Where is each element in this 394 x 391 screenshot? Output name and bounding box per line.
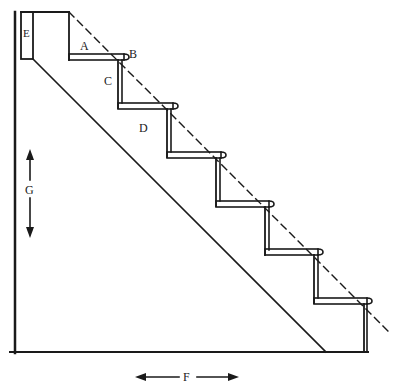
step-5 [265, 249, 323, 303]
label-d-stringer: D [139, 121, 148, 135]
staircase-diagram: A B C D E F G [0, 0, 394, 391]
step-4 [216, 201, 274, 255]
stringer-underside [33, 59, 326, 352]
label-b-nosing: B [129, 47, 137, 61]
staircase-svg: A B C D E F G [0, 0, 394, 391]
step-2 [118, 103, 178, 157]
label-c-riser: C [104, 74, 112, 88]
label-a-tread: A [80, 39, 89, 53]
step-6 [314, 298, 372, 352]
label-e-header: E [23, 27, 30, 39]
label-g-rise: G [25, 183, 34, 197]
label-f-run: F [183, 370, 190, 384]
